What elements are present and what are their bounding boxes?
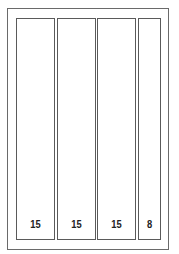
panel-1-label: 15 [20, 218, 51, 230]
panel-2-label: 15 [61, 218, 92, 230]
panel-3-label: 15 [101, 218, 132, 230]
panel-4-label: 8 [141, 218, 159, 230]
panel-4: 8 [138, 18, 161, 240]
panel-1: 15 [16, 18, 55, 240]
panel-3: 15 [97, 18, 136, 240]
panel-2: 15 [57, 18, 96, 240]
